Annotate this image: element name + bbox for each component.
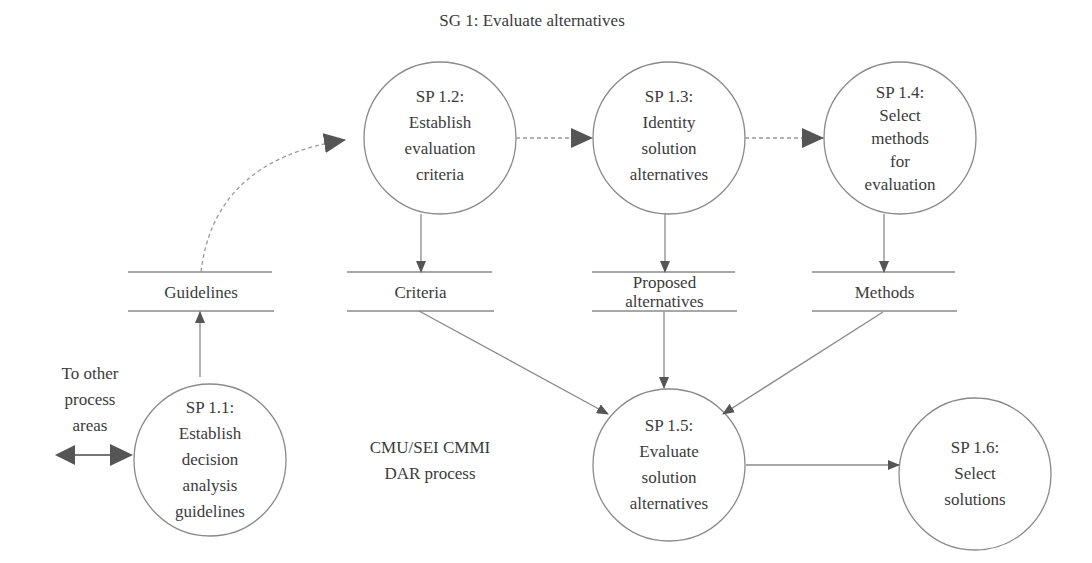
process-line: for <box>890 150 910 173</box>
store-label: Guidelines <box>164 283 238 302</box>
process-line: solution <box>642 136 697 162</box>
process-sp15: SP 1.5: Evaluate solution alternatives <box>593 389 745 541</box>
process-code: SP 1.5: <box>645 413 694 439</box>
store-proposed-alternatives: Proposed alternatives <box>592 273 737 311</box>
process-line: Evaluate <box>639 439 698 465</box>
process-line: Select <box>954 461 996 487</box>
process-code: SP 1.6: <box>951 435 1000 461</box>
store-criteria: Criteria <box>347 273 494 311</box>
flow-methods-to-sp15 <box>723 312 883 414</box>
external-label-line: areas <box>73 413 108 439</box>
process-line: Select <box>879 104 921 127</box>
store-label: Proposed <box>633 273 696 292</box>
process-line: solution <box>642 465 697 491</box>
store-label: Criteria <box>395 283 447 302</box>
process-line: alternatives <box>630 491 708 517</box>
external-label: To other process areas <box>40 360 140 440</box>
process-line: criteria <box>416 162 464 188</box>
process-line: Establish <box>179 421 241 447</box>
process-code: SP 1.1: <box>186 395 235 421</box>
process-line: analysis <box>183 473 238 499</box>
diagram-caption: CMU/SEI CMMI DAR process <box>345 433 515 489</box>
process-code: SP 1.3: <box>645 84 694 110</box>
external-bidirectional-arrow <box>55 444 133 466</box>
goal-title: SG 1: Evaluate alternatives <box>372 8 692 34</box>
process-code: SP 1.2: <box>416 84 465 110</box>
flow-criteria-to-sp15 <box>419 311 608 414</box>
process-line: methods <box>871 127 929 150</box>
process-code: SP 1.4: <box>876 81 925 104</box>
process-line: Establish <box>409 110 471 136</box>
external-label-line: process <box>65 387 116 413</box>
caption-line: CMU/SEI CMMI <box>370 435 490 461</box>
process-line: solutions <box>944 487 1005 513</box>
process-sp12: SP 1.2: Establish evaluation criteria <box>364 60 516 212</box>
caption-line: DAR process <box>384 461 475 487</box>
process-sp16: SP 1.6: Select solutions <box>899 398 1051 550</box>
process-sp13: SP 1.3: Identity solution alternatives <box>593 60 745 212</box>
process-line: evaluation <box>865 173 936 196</box>
store-guidelines: Guidelines <box>128 273 274 311</box>
process-sp11: SP 1.1: Establish decision analysis guid… <box>134 384 286 536</box>
process-line: evaluation <box>405 136 476 162</box>
store-label: Methods <box>855 283 915 302</box>
process-line: guidelines <box>175 499 245 525</box>
store-methods: Methods <box>812 273 957 311</box>
external-label-line: To other <box>62 361 119 387</box>
flow-guidelines-to-sp12 <box>201 140 345 272</box>
process-line: alternatives <box>630 162 708 188</box>
process-line: decision <box>182 447 239 473</box>
process-line: Identity <box>643 110 696 136</box>
process-sp14: SP 1.4: Select methods for evaluation <box>824 62 976 214</box>
store-label: alternatives <box>625 292 703 311</box>
